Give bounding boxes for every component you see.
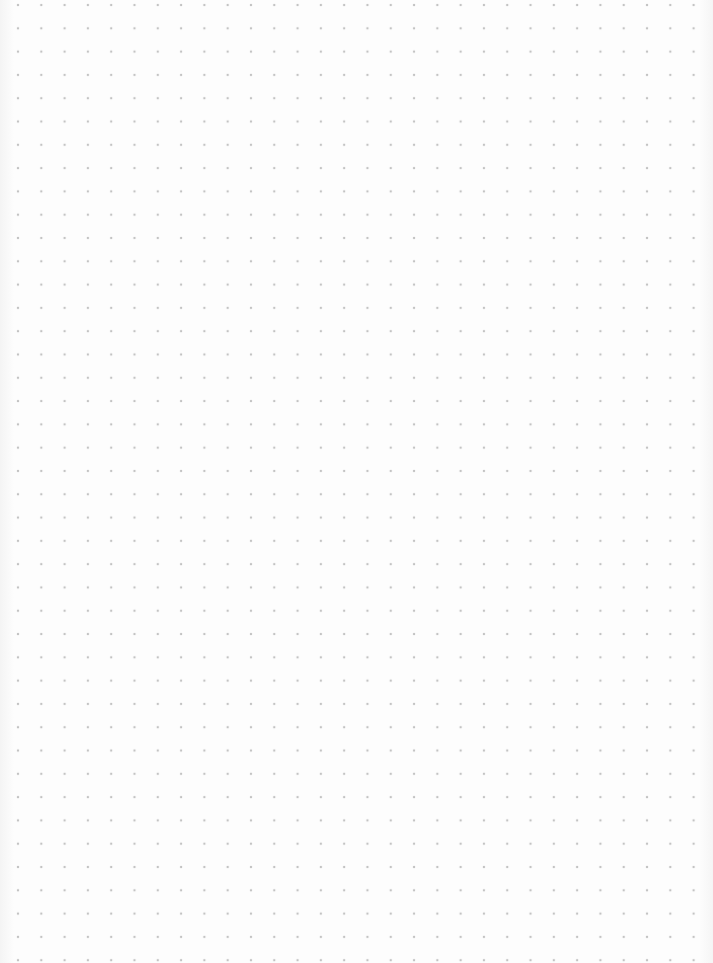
paper-edge-shadow-right: [699, 0, 713, 963]
dot-grid-paper: [0, 0, 713, 963]
paper-edge-shadow-left: [0, 0, 14, 963]
